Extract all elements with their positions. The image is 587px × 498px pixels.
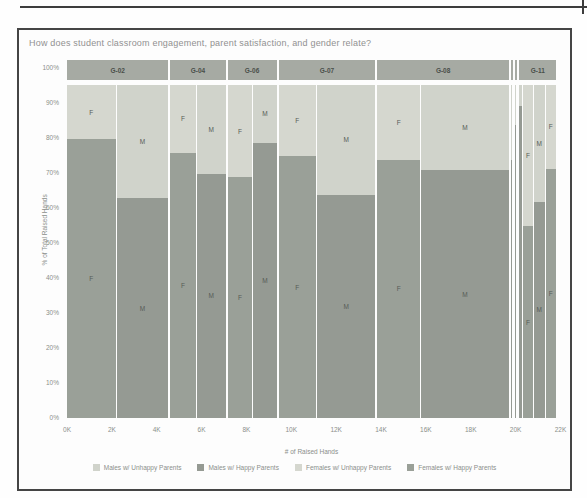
unhappy-segment: M (421, 85, 509, 170)
y-tick-label: 30% (46, 309, 59, 316)
legend-swatch (407, 464, 414, 471)
gender-label: F (295, 117, 299, 124)
y-tick-label: 80% (46, 134, 59, 141)
gender-label: F (181, 282, 185, 289)
x-tick-label: 18K (465, 426, 477, 433)
group-small (511, 60, 513, 418)
unhappy-segment: M (197, 85, 226, 174)
gender-label: F (89, 275, 93, 282)
legend: Males w/ Unhappy ParentsMales w/ Happy P… (19, 464, 570, 471)
group-G-08: G-08FFMM (377, 60, 508, 418)
bar-M: MM (421, 85, 509, 418)
page-top-rule (20, 6, 587, 8)
unhappy-segment (519, 85, 522, 106)
happy-segment: F (67, 139, 116, 418)
legend-item: Females w/ Happy Parents (407, 464, 496, 471)
page-corner-mark (582, 0, 584, 14)
happy-segment: M (421, 170, 509, 418)
group-bars: FFMM (228, 85, 277, 418)
group-G-02: G-02FFMM (67, 60, 168, 418)
bar-F: FF (546, 85, 556, 418)
gender-label: F (397, 119, 401, 126)
group-bars (515, 85, 517, 418)
bar-F: FF (279, 85, 316, 418)
group-band-label: G-08 (377, 60, 508, 80)
group-G-07: G-07FFMM (279, 60, 376, 418)
gender-label: M (208, 126, 213, 133)
x-tick-label: 14K (375, 426, 387, 433)
bar-F: FF (523, 85, 532, 418)
happy-segment: M (117, 198, 169, 418)
unhappy-segment: M (253, 85, 276, 143)
x-tick-label: 10K (286, 426, 298, 433)
bar-F: FF (67, 85, 116, 418)
gender-label: F (295, 284, 299, 291)
legend-label: Males w/ Happy Parents (208, 464, 278, 471)
group-band-label (515, 60, 517, 80)
legend-item: Males w/ Happy Parents (197, 464, 278, 471)
group-G-04: G-04FFMM (170, 60, 225, 418)
bar-F: FF (228, 85, 253, 418)
group-G-11: G-11FFMMFF (519, 60, 556, 418)
happy-segment: F (170, 153, 195, 418)
gender-label: M (462, 124, 467, 131)
group-bars: FFMM (170, 85, 225, 418)
gender-label: M (208, 292, 213, 299)
bar-sliver (519, 85, 522, 418)
unhappy-segment: F (67, 85, 116, 139)
gender-label: F (526, 152, 530, 159)
gender-label: M (140, 305, 145, 312)
gender-label: M (462, 291, 467, 298)
gender-label: M (536, 140, 541, 147)
x-tick-label: 16K (420, 426, 432, 433)
unhappy-segment: F (523, 85, 532, 226)
x-axis-title: # of Raised Hands (67, 448, 556, 455)
group-bars: FFMM (279, 85, 376, 418)
happy-segment: M (534, 202, 545, 418)
legend-item: Males w/ Unhappy Parents (93, 464, 182, 471)
gender-label: F (526, 319, 530, 326)
gender-label: M (343, 136, 348, 143)
group-band-label: G-11 (519, 60, 556, 80)
x-axis: 0K2K4K6K8K10K12K14K16K18K20K22K (67, 426, 556, 436)
x-tick-label: 22K (555, 426, 567, 433)
scanned-page: How does student classroom engagement, p… (0, 0, 587, 498)
group-bars: FFMM (67, 85, 168, 418)
bar-F: FF (377, 85, 419, 418)
legend-label: Males w/ Unhappy Parents (104, 464, 182, 471)
plot-area: G-02FFMMG-04FFMMG-06FFMMG-07FFMMG-08FFMM… (67, 60, 556, 418)
y-tick-label: 20% (46, 344, 59, 351)
y-axis-title: % of Total Raised Hands (41, 185, 48, 275)
y-tick-label: 50% (46, 239, 59, 246)
bar-M: MM (117, 85, 169, 418)
gender-label: F (89, 109, 93, 116)
happy-segment (519, 106, 522, 418)
gender-label: F (181, 115, 185, 122)
x-tick-label: 0K (63, 426, 71, 433)
y-axis: % of Total Raised Hands 100%90%80%70%60%… (25, 60, 63, 418)
group-bars (511, 85, 513, 418)
unhappy-segment: M (317, 85, 375, 195)
gender-label: M (262, 277, 267, 284)
legend-label: Females w/ Happy Parents (418, 464, 496, 471)
y-tick-label: 100% (42, 64, 59, 71)
gender-label: F (238, 294, 242, 301)
unhappy-segment: F (546, 85, 556, 169)
unhappy-segment: F (377, 85, 419, 160)
gender-label: M (140, 138, 145, 145)
unhappy-segment: F (170, 85, 195, 153)
chart-title: How does student classroom engagement, p… (29, 38, 371, 48)
unhappy-segment: M (117, 85, 169, 198)
bar-M: MM (534, 85, 545, 418)
group-bars: FFMMFF (519, 85, 556, 418)
group-band-label: G-04 (170, 60, 225, 80)
gender-label: F (238, 128, 242, 135)
group-band-label: G-06 (228, 60, 277, 80)
unhappy-segment: F (279, 85, 316, 156)
x-tick-label: 4K (153, 426, 161, 433)
legend-swatch (93, 464, 100, 471)
legend-swatch (295, 464, 302, 471)
group-band-label (511, 60, 513, 80)
x-tick-label: 2K (108, 426, 116, 433)
bar-M: MM (317, 85, 375, 418)
